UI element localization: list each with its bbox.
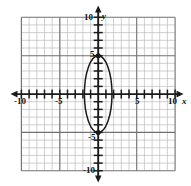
y-tick-label-neg10: -10 — [83, 166, 95, 175]
vertex-point-bottom — [96, 130, 101, 135]
x-tick-label-5: 5 — [135, 97, 140, 106]
vertex-point-top — [96, 53, 101, 58]
y-axis-label: y — [102, 12, 106, 21]
x-tick-label-10: 10 — [168, 97, 177, 106]
y-tick-label-5: 5 — [90, 50, 95, 59]
coordinate-plane-svg — [0, 0, 191, 186]
graph-figure: -10 -5 5 10 10 5 -5 -10 x y — [0, 0, 191, 186]
x-axis-label: x — [182, 97, 187, 106]
x-tick-label-neg10: -10 — [14, 97, 26, 106]
y-tick-label-10: 10 — [84, 13, 93, 22]
x-tick-label-neg5: -5 — [55, 97, 63, 106]
y-tick-label-neg5: -5 — [88, 133, 96, 142]
